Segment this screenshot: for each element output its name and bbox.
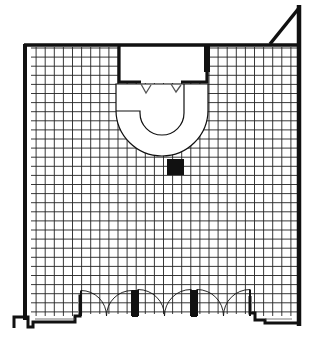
u-shaped-counter xyxy=(116,84,208,156)
floor-plan xyxy=(0,0,319,346)
back-room xyxy=(118,46,208,83)
back-room-wall-pier xyxy=(204,44,210,72)
column xyxy=(167,159,184,175)
corner-triangle xyxy=(270,8,299,44)
